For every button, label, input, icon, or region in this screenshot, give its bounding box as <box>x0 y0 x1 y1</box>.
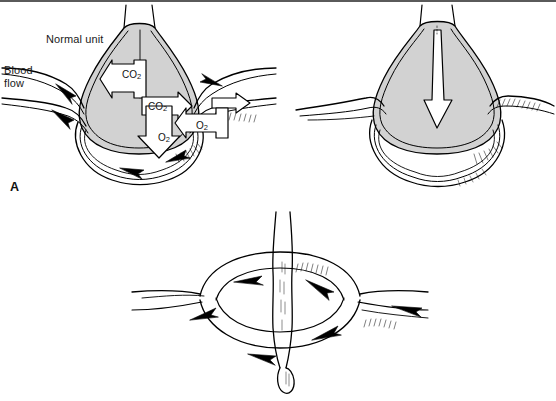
figure-ventilation-perfusion-units: Normal unit Blood flow CO2 CO2 O2 O2 A <box>0 0 556 401</box>
panel-a-gas-label-o2-center: O2 <box>158 132 170 144</box>
panel-a-letter: A <box>10 180 19 194</box>
panel-a-illustration <box>0 2 278 202</box>
panel-c-shunt-unit: Shunt unit Blood flow C <box>130 200 430 401</box>
panel-c-illustration <box>130 200 430 401</box>
panel-b-dead-space-unit: Dead space unit No blood flow O2 B <box>278 2 556 202</box>
panel-a-gas-label-co2-upper-left: CO2 <box>122 69 141 81</box>
panel-a-gas-label-o2-right: O2 <box>196 120 208 132</box>
panel-a-gas-label-co2-center: CO2 <box>148 101 167 113</box>
panel-a-title: Normal unit <box>46 33 103 46</box>
panel-a-blood-flow-label: Blood flow <box>4 64 33 89</box>
panel-a-normal-unit: Normal unit Blood flow CO2 CO2 O2 O2 A <box>0 2 278 202</box>
panel-b-illustration <box>278 2 556 202</box>
